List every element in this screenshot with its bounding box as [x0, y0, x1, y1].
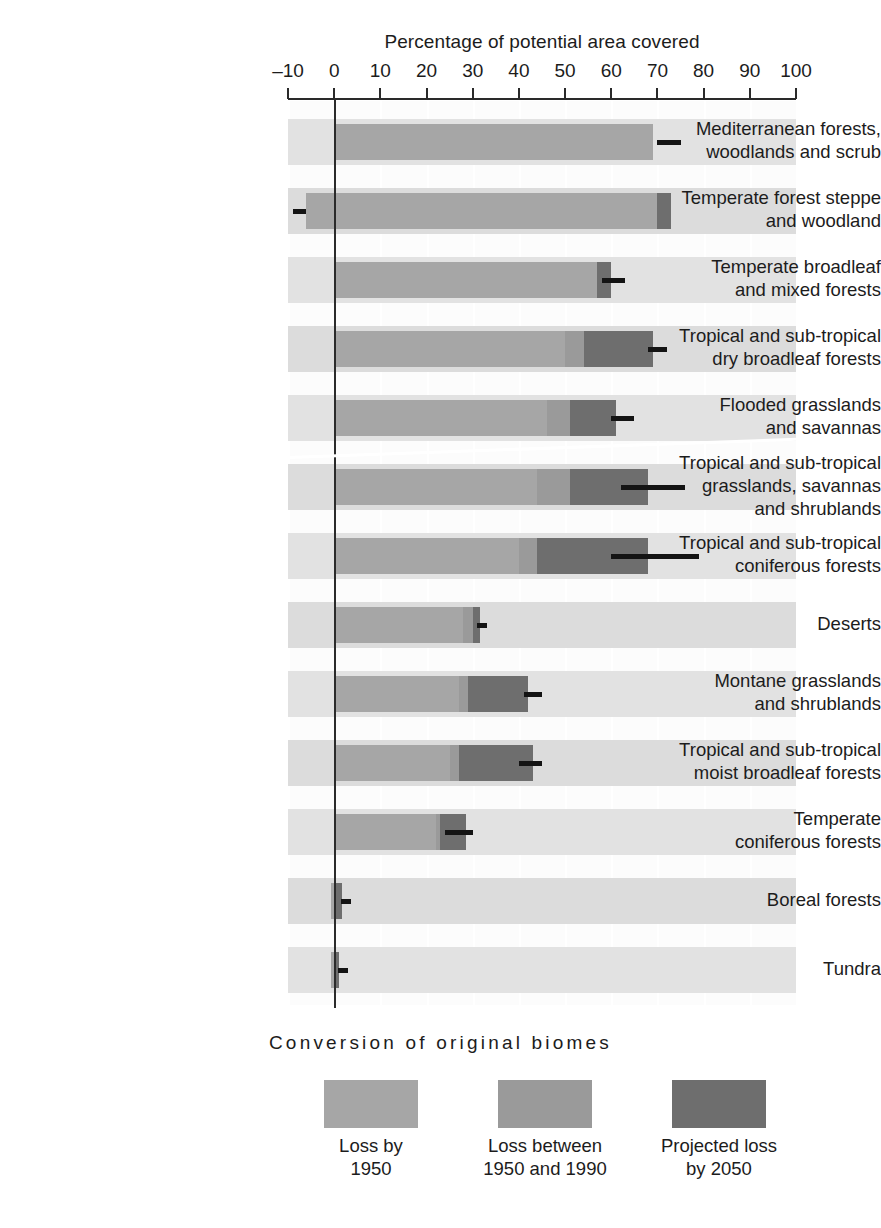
category-label-line: Tropical and sub-tropical	[609, 451, 881, 474]
legend-item[interactable]: Projected lossby 2050	[636, 1080, 802, 1180]
bar-segment-loss-1950	[334, 400, 546, 436]
category-label: Montane grasslandsand shrublands	[609, 669, 881, 715]
category-label-line: and mixed forests	[609, 278, 881, 301]
legend: Loss by1950Loss between1950 and 1990Proj…	[288, 1080, 802, 1220]
category-label-line: woodlands and scrub	[609, 140, 881, 163]
axis-baseline	[288, 98, 796, 100]
range-marker	[338, 968, 348, 973]
category-label-line: Tundra	[609, 957, 881, 980]
bar-segment-loss-1950	[334, 607, 463, 643]
x-tick-label: 10	[370, 60, 391, 82]
x-tick-label: 0	[329, 60, 340, 82]
category-label: Boreal forests	[609, 888, 881, 911]
category-label: Mediterranean forests,woodlands and scru…	[609, 117, 881, 163]
x-axis: –100102030405060708090100	[0, 60, 881, 105]
category-label: Temperateconiferous forests	[609, 807, 881, 853]
bar-segment-loss-1950-1990	[519, 538, 537, 574]
bar-segment-loss-1950	[334, 538, 519, 574]
bar-segment-loss-1950	[334, 814, 436, 850]
category-label: Deserts	[609, 612, 881, 635]
category-label-line: dry broadleaf forests	[609, 347, 881, 370]
legend-label-line: 1950	[288, 1157, 454, 1180]
bar-segment-loss-1950	[334, 469, 537, 505]
x-tick-mark	[287, 88, 289, 99]
x-tick-label: 80	[693, 60, 714, 82]
x-tick-label: 90	[739, 60, 760, 82]
legend-label-line: Loss by	[288, 1134, 454, 1157]
bar-segment-loss-1950	[334, 676, 459, 712]
legend-label-line: Projected loss	[636, 1134, 802, 1157]
category-label-line: Temperate broadleaf	[609, 255, 881, 278]
x-tick-mark	[518, 88, 520, 99]
legend-label-line: 1950 and 1990	[462, 1157, 628, 1180]
category-label-line: Tropical and sub-tropical	[609, 738, 881, 761]
bar-segment-loss-1950-1990	[547, 400, 570, 436]
x-tick-mark	[749, 88, 751, 99]
legend-item[interactable]: Loss by1950	[288, 1080, 454, 1180]
category-label: Tropical and sub-tropicalmoist broadleaf…	[609, 738, 881, 784]
range-marker	[341, 899, 351, 904]
category-label-line: and shrublands	[609, 497, 881, 520]
chart-title: Percentage of potential area covered	[288, 31, 796, 53]
bar-segment-loss-1950	[334, 331, 565, 367]
x-tick-mark	[656, 88, 658, 99]
x-tick-mark	[795, 88, 797, 99]
x-tick-mark	[472, 88, 474, 99]
bar-segment-loss-1950-1990	[459, 676, 468, 712]
x-tick-mark	[379, 88, 381, 99]
bar-segment-loss-1950-1990	[537, 469, 569, 505]
category-label-line: Boreal forests	[609, 888, 881, 911]
category-label-line: coniferous forests	[609, 830, 881, 853]
category-label-line: grasslands, savannas	[609, 474, 881, 497]
legend-swatch	[672, 1080, 766, 1128]
range-marker	[293, 209, 307, 214]
category-label: Tropical and sub-tropicaldry broadleaf f…	[609, 324, 881, 370]
x-tick-mark	[703, 88, 705, 99]
range-marker	[524, 692, 542, 697]
x-tick-label: 40	[508, 60, 529, 82]
category-label-line: Flooded grasslands	[609, 393, 881, 416]
legend-swatch	[324, 1080, 418, 1128]
x-tick-label: 30	[462, 60, 483, 82]
range-marker	[519, 761, 542, 766]
x-tick-label: 60	[601, 60, 622, 82]
x-tick-label: 100	[780, 60, 812, 82]
x-tick-mark	[610, 88, 612, 99]
category-label-line: moist broadleaf forests	[609, 761, 881, 784]
x-tick-label: –10	[272, 60, 304, 82]
category-label-line: coniferous forests	[609, 554, 881, 577]
bar-segment-loss-1950	[334, 262, 597, 298]
category-label: Temperate broadleafand mixed forests	[609, 255, 881, 301]
legend-label-line: by 2050	[636, 1157, 802, 1180]
bar-segment-loss-1950	[306, 193, 657, 229]
x-tick-label: 20	[416, 60, 437, 82]
zero-axis-line	[334, 98, 336, 1008]
category-label: Tropical and sub-tropicalgrasslands, sav…	[609, 451, 881, 520]
bar-segment-loss-1950-1990	[565, 331, 583, 367]
legend-item[interactable]: Loss between1950 and 1990	[462, 1080, 628, 1180]
category-label-line: Mediterranean forests,	[609, 117, 881, 140]
legend-title: Conversion of original biomes	[0, 1032, 881, 1054]
category-label-line: and shrublands	[609, 692, 881, 715]
category-label-line: Tropical and sub-tropical	[609, 324, 881, 347]
category-label-line: Temperate	[609, 807, 881, 830]
bar-segment-loss-1950-1990	[450, 745, 459, 781]
category-label: Temperate forest steppeand woodland	[609, 186, 881, 232]
category-label: Flooded grasslandsand savannas	[609, 393, 881, 439]
bar-segment-loss-1950	[334, 745, 449, 781]
bar-segment-loss-1950-1990	[463, 607, 472, 643]
chart-root: Percentage of potential area covered –10…	[0, 0, 881, 1228]
category-label-line: Tropical and sub-tropical	[609, 531, 881, 554]
x-tick-label: 50	[555, 60, 576, 82]
category-label: Tundra	[609, 957, 881, 980]
range-marker	[477, 623, 487, 628]
category-label-line: Deserts	[609, 612, 881, 635]
category-label-line: and woodland	[609, 209, 881, 232]
bar-segment-loss-1950	[334, 124, 653, 160]
category-label: Tropical and sub-tropicalconiferous fore…	[609, 531, 881, 577]
x-tick-mark	[564, 88, 566, 99]
legend-swatch	[498, 1080, 592, 1128]
x-tick-label: 70	[647, 60, 668, 82]
category-label-line: Temperate forest steppe	[609, 186, 881, 209]
legend-label-line: Loss between	[462, 1134, 628, 1157]
